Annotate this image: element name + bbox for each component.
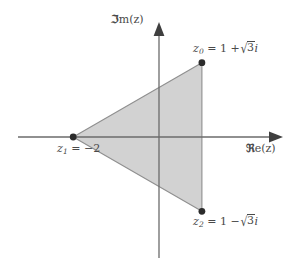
point-z1[interactable] bbox=[70, 134, 77, 141]
point-z0[interactable] bbox=[199, 59, 206, 66]
point-label-z2-subscript: 2 bbox=[199, 220, 204, 229]
real-axis-label-symbol: ℜ bbox=[246, 142, 255, 155]
real-axis-arrowhead bbox=[269, 132, 283, 143]
imaginary-axis-label-close: ) bbox=[139, 13, 143, 26]
point-label-z1: z1 = −2 bbox=[57, 143, 100, 156]
point-label-z2-var: z bbox=[193, 215, 199, 228]
real-axis-label-close: ) bbox=[271, 142, 275, 155]
real-axis-label: ℜe(z) bbox=[246, 142, 276, 155]
point-label-z0: z0 = 1 +√3i bbox=[193, 41, 258, 56]
point-label-z2-equals: = bbox=[207, 215, 216, 228]
imaginary-axis-label: ℑm(z) bbox=[111, 13, 144, 26]
point-label-z0-var: z bbox=[193, 42, 199, 55]
imaginary-axis-label-text: m( bbox=[119, 13, 134, 26]
real-axis-label-text: e( bbox=[255, 142, 266, 155]
point-label-z2-radical: √3 bbox=[240, 214, 255, 227]
point-label-z0-radicand: 3 bbox=[247, 41, 255, 54]
point-label-z0-equals: = bbox=[207, 42, 216, 55]
point-label-z1-value: −2 bbox=[84, 142, 100, 155]
point-label-z1-equals: = bbox=[71, 142, 80, 155]
point-label-z1-var: z bbox=[57, 142, 63, 155]
point-label-z0-imaginary-unit: i bbox=[255, 42, 259, 55]
point-label-z2-real: 1 − bbox=[220, 215, 240, 228]
imaginary-axis-arrowhead bbox=[154, 22, 165, 36]
point-label-z1-subscript: 1 bbox=[63, 147, 68, 156]
point-label-z0-real: 1 + bbox=[220, 42, 240, 55]
imaginary-axis-label-symbol: ℑ bbox=[111, 13, 119, 26]
point-label-z0-radical: √3 bbox=[240, 41, 255, 54]
point-label-z2-radicand: 3 bbox=[247, 214, 255, 227]
complex-plane-figure: z0 = 1 +√3i z1 = −2 z2 = 1 −√3i ℜe(z) ℑm… bbox=[0, 0, 299, 275]
point-label-z0-subscript: 0 bbox=[199, 47, 204, 56]
point-label-z2-imaginary-unit: i bbox=[255, 215, 259, 228]
point-label-z2: z2 = 1 −√3i bbox=[193, 214, 258, 229]
